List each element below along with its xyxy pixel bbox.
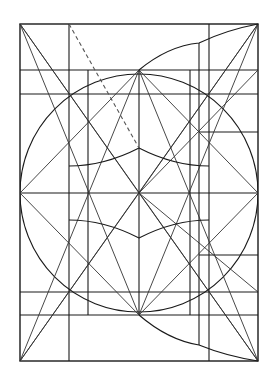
diagonal-line <box>20 70 139 361</box>
diagonal-line <box>20 193 139 315</box>
diagonal-line <box>20 24 139 193</box>
dashed-line <box>69 24 139 148</box>
dashed-construction-line <box>69 24 139 148</box>
geometric-construction-diagram <box>0 0 276 390</box>
diagonal-line <box>20 70 139 193</box>
diagonal-line <box>20 193 139 361</box>
diagonal-line <box>20 24 139 315</box>
